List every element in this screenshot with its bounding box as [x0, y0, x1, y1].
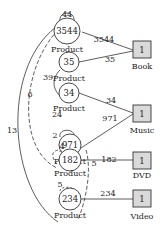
product-node-35[interactable]: 35 Product	[53, 52, 86, 83]
edge-label-39: 39	[43, 73, 53, 82]
product-node-234[interactable]: 234 Product	[54, 188, 87, 220]
edge-label-234: 234	[100, 189, 115, 198]
svg-text:234: 234	[62, 194, 78, 204]
loop-label-24: 24	[52, 110, 62, 119]
product-node-34[interactable]: 34 Product	[53, 83, 86, 113]
svg-text:1: 1	[139, 45, 144, 55]
graph-diagram: 3544 Product 35 Product 34 Product 971 P…	[0, 0, 162, 232]
edge-label-5: 5	[91, 159, 96, 168]
svg-text:35: 35	[64, 57, 75, 67]
category-node-music[interactable]: 1 Music	[130, 105, 155, 135]
edge-label-13: 13	[7, 126, 17, 135]
edge-label-971: 971	[102, 114, 117, 123]
category-node-dvd[interactable]: 1 DVD	[133, 152, 151, 180]
svg-text:1: 1	[139, 156, 144, 166]
edge-label-35: 35	[105, 55, 115, 64]
svg-text:Book: Book	[132, 62, 153, 71]
edge-label-2: 2	[52, 131, 57, 140]
svg-text:DVD: DVD	[133, 171, 151, 180]
edge-label-3544: 3544	[94, 35, 114, 44]
svg-text:182: 182	[62, 155, 78, 165]
loop-label-4: 4	[59, 142, 64, 151]
category-node-video[interactable]: 1 Video	[130, 190, 154, 221]
svg-text:3544: 3544	[56, 26, 78, 36]
svg-text:Product: Product	[53, 74, 86, 83]
svg-text:1: 1	[139, 109, 144, 119]
svg-text:34: 34	[64, 88, 75, 98]
edge-p1-p6	[18, 27, 58, 222]
category-node-book[interactable]: 1 Book	[132, 41, 153, 71]
svg-text:Product: Product	[54, 211, 87, 220]
edge-label-6: 6	[27, 90, 32, 99]
svg-text:Product: Product	[54, 169, 87, 178]
svg-text:Video: Video	[130, 212, 154, 221]
svg-text:1: 1	[139, 194, 144, 204]
loop-label-5: 5	[57, 180, 62, 189]
product-node-3544[interactable]: 3544 Product	[51, 18, 84, 54]
edge-label-34: 34	[106, 96, 116, 105]
edge-label-182: 182	[101, 155, 116, 164]
loop-label-44: 44	[62, 10, 72, 19]
svg-text:Music: Music	[130, 126, 155, 135]
